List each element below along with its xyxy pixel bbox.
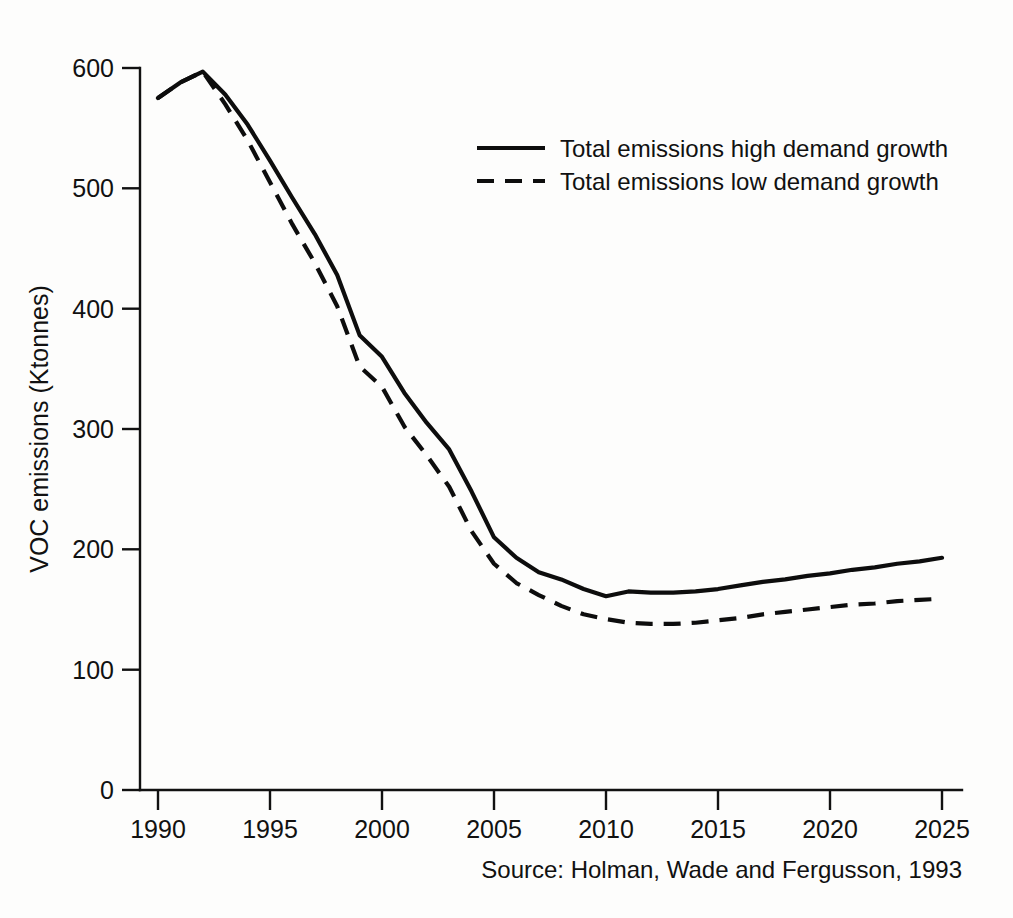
y-axis-ticks <box>122 68 140 790</box>
y-tick-label-500: 500 <box>72 174 114 202</box>
chart-legend: Total emissions high demand growth Total… <box>477 135 948 195</box>
y-tick-label-0: 0 <box>100 776 114 804</box>
y-tick-label-200: 200 <box>72 535 114 563</box>
voc-emissions-line-chart: 0 100 200 300 400 500 600 1990 1995 2000… <box>0 0 1013 918</box>
y-tick-label-100: 100 <box>72 656 114 684</box>
x-tick-label-2000: 2000 <box>354 815 410 843</box>
y-axis-title: VOC emissions (Ktonnes) <box>25 285 53 573</box>
source-attribution: Source: Holman, Wade and Fergusson, 1993 <box>481 856 962 883</box>
y-tick-label-300: 300 <box>72 415 114 443</box>
y-tick-label-600: 600 <box>72 54 114 82</box>
y-axis-tick-labels: 0 100 200 300 400 500 600 <box>72 54 114 804</box>
x-tick-label-2025: 2025 <box>914 815 970 843</box>
x-tick-label-1990: 1990 <box>130 815 186 843</box>
x-axis-tick-labels: 1990 1995 2000 2005 2010 2015 2020 2025 <box>130 815 970 843</box>
x-tick-label-2015: 2015 <box>690 815 746 843</box>
x-tick-label-2020: 2020 <box>802 815 858 843</box>
chart-figure: 0 100 200 300 400 500 600 1990 1995 2000… <box>0 0 1013 918</box>
legend-label-high-demand-growth: Total emissions high demand growth <box>560 135 948 162</box>
x-tick-label-2005: 2005 <box>466 815 522 843</box>
y-tick-label-400: 400 <box>72 295 114 323</box>
x-tick-label-1995: 1995 <box>242 815 298 843</box>
x-axis-ticks <box>158 790 942 810</box>
x-tick-label-2010: 2010 <box>578 815 634 843</box>
legend-label-low-demand-growth: Total emissions low demand growth <box>560 168 939 195</box>
